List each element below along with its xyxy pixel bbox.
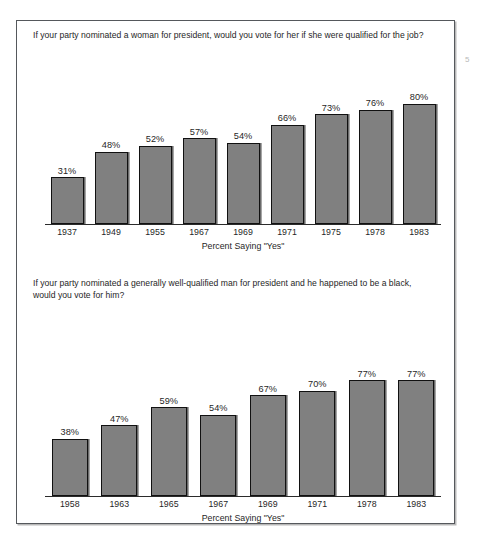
x-axis-caption-women: Percent Saying "Yes" [45,241,441,252]
bar: 70% [299,391,335,496]
x-tick-label: 1958 [45,499,95,510]
x-tick-label: 1971 [265,227,309,238]
x-tick-label: 1963 [95,499,145,510]
bar-value-label: 77% [407,369,425,379]
bar-slot: 77% [392,309,442,496]
bar-value-label: 70% [308,379,326,389]
x-tick-label: 1967 [177,227,221,238]
figure-frame: If your party nominated a woman for pres… [16,20,455,524]
bar: 48% [95,152,128,224]
bar-slot: 52% [133,51,177,224]
x-axis-line-black-candidate [45,496,441,498]
bar-value-label: 80% [410,92,428,102]
x-axis-line-women [45,224,441,226]
bar: 67% [250,395,286,496]
x-tick-label: 1971 [293,499,343,510]
chart-title-black-candidate: If your party nominated a generally well… [33,277,442,302]
bar-value-label: 66% [278,113,296,123]
chart-title-women: If your party nominated a woman for pres… [33,29,442,41]
bar: 47% [101,425,137,496]
bar-slot: 47% [95,309,145,496]
bar-slot: 59% [144,309,194,496]
bar-value-label: 67% [259,384,277,394]
bar: 54% [227,143,260,224]
x-tick-label: 1965 [144,499,194,510]
bar: 57% [183,138,216,224]
bar-slot: 70% [293,309,343,496]
bar: 59% [151,407,187,496]
bar-slot: 66% [265,51,309,224]
x-tick-label: 1983 [392,499,442,510]
bar-slot: 48% [89,51,133,224]
bar: 31% [51,177,84,224]
x-axis-caption-black-candidate: Percent Saying "Yes" [45,513,441,524]
bar: 66% [271,125,304,224]
bar-slot: 67% [243,309,293,496]
bar-value-label: 52% [146,134,164,144]
bar: 80% [403,104,436,224]
bar-value-label: 59% [160,396,178,406]
x-tick-label: 1978 [342,499,392,510]
x-tick-label: 1975 [309,227,353,238]
bar-slot: 73% [309,51,353,224]
bar-slot: 54% [221,51,265,224]
x-tick-label: 1969 [243,499,293,510]
x-tick-labels-black-candidate: 19581963196519671969197119781983 [45,499,441,510]
plot-area-women: 31%48%52%57%54%66%73%76%80% 193719491955… [45,51,441,225]
bar: 76% [359,110,392,224]
bar-value-label: 38% [61,427,79,437]
bar: 77% [349,380,385,496]
bar-slot: 54% [194,309,244,496]
bar: 77% [398,380,434,496]
chart-panel-women: If your party nominated a woman for pres… [17,21,454,269]
bar-slot: 76% [353,51,397,224]
x-tick-label: 1969 [221,227,265,238]
plot-area-black-candidate: 38%47%59%54%67%70%77%77% 195819631965196… [45,309,441,497]
bar-value-label: 73% [322,103,340,113]
bar: 73% [315,114,348,224]
bar-slot: 80% [397,51,441,224]
bar-slot: 31% [45,51,89,224]
bar-value-label: 76% [366,98,384,108]
bar: 38% [52,439,88,496]
bar-series-women: 31%48%52%57%54%66%73%76%80% [45,51,441,224]
bar-value-label: 48% [102,140,120,150]
bar-value-label: 57% [190,127,208,137]
bar-series-black-candidate: 38%47%59%54%67%70%77%77% [45,309,441,496]
page-number-fragment: 5 [465,56,469,64]
chart-panel-black-candidate: If your party nominated a generally well… [17,269,454,523]
bar: 54% [200,415,236,496]
bar-value-label: 54% [209,403,227,413]
bar: 52% [139,146,172,224]
x-tick-label: 1937 [45,227,89,238]
x-tick-label: 1983 [397,227,441,238]
x-tick-labels-women: 193719491955196719691971197519781983 [45,227,441,238]
bar-value-label: 54% [234,131,252,141]
bar-value-label: 47% [110,414,128,424]
x-tick-label: 1949 [89,227,133,238]
x-tick-label: 1967 [194,499,244,510]
x-tick-label: 1955 [133,227,177,238]
bar-value-label: 77% [358,369,376,379]
x-tick-label: 1978 [353,227,397,238]
bar-slot: 57% [177,51,221,224]
bar-slot: 38% [45,309,95,496]
bar-value-label: 31% [58,166,76,176]
bar-slot: 77% [342,309,392,496]
